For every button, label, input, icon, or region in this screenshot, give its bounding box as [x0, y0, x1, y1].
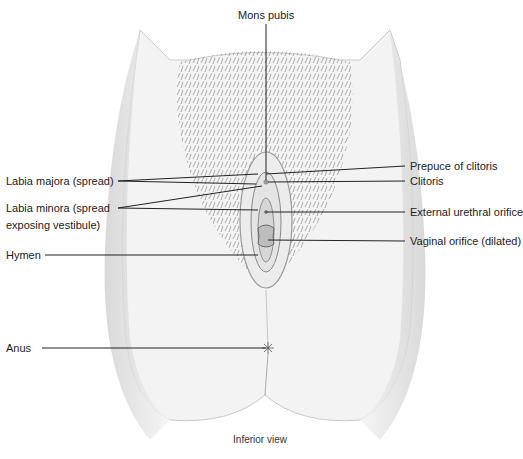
label-vaginal-orifice: Vaginal orifice (dilated)	[410, 234, 521, 248]
label-mons-pubis: Mons pubis	[238, 8, 294, 22]
label-labia-minora-line2: exposing vestibule)	[6, 218, 100, 232]
label-anus: Anus	[6, 341, 31, 355]
label-external-urethral-orifice: External urethral orifice	[410, 205, 523, 219]
label-labia-majora: Labia majora (spread)	[6, 174, 114, 188]
label-prepuce: Prepuce of clitoris	[410, 159, 497, 173]
label-clitoris: Clitoris	[410, 174, 444, 188]
label-hymen: Hymen	[6, 248, 41, 262]
label-labia-minora-line1: Labia minora (spread	[6, 201, 110, 215]
view-caption: Inferior view	[0, 434, 520, 445]
